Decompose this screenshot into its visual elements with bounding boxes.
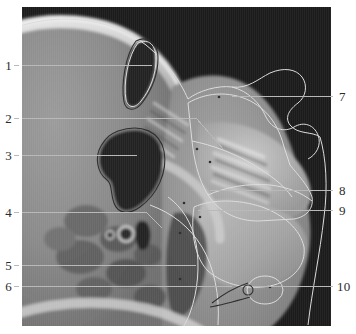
callout-label-7[interactable]: 7 [339, 90, 346, 103]
callout-label-1[interactable]: 1 [0, 59, 12, 72]
callout-label-4[interactable]: 4 [0, 206, 12, 219]
callout-label-10[interactable]: 10 [337, 280, 351, 293]
callout-label-2[interactable]: 2 [0, 112, 12, 125]
anatomical-scan-panel [22, 7, 331, 326]
callout-label-6[interactable]: 6 [0, 280, 12, 293]
callout-label-9[interactable]: 9 [339, 204, 346, 217]
scan-image [22, 7, 331, 326]
callout-label-3[interactable]: 3 [0, 149, 12, 162]
figure-root: 1 2 3 4 5 6 7 8 9 10 [0, 0, 356, 334]
callout-label-5[interactable]: 5 [0, 259, 12, 272]
callout-label-8[interactable]: 8 [339, 184, 346, 197]
